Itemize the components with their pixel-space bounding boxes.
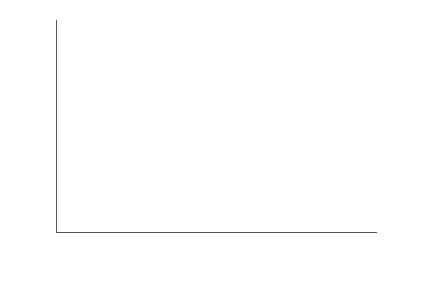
y-axis-line	[56, 20, 57, 232]
x-axis-line	[56, 232, 377, 233]
population-stacked-bar-chart	[0, 0, 445, 292]
developed-developing-step-line	[30, 0, 390, 292]
region-bracket-legend	[378, 0, 445, 292]
